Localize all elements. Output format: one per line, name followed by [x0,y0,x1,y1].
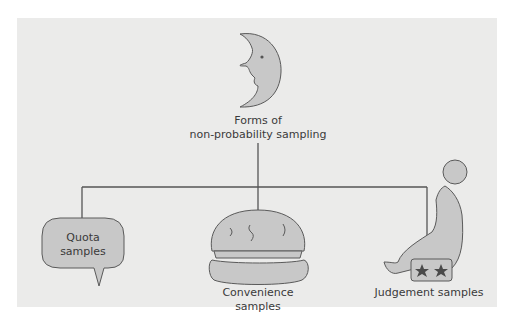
hamburger-icon [209,210,308,285]
crescent-moon-icon [240,34,281,108]
seal-icon [384,160,467,281]
judgement-samples-label: Judgement samples [369,286,489,300]
quota-label-line1: Quota [42,231,124,245]
diagram-graphics [0,0,516,327]
convenience-samples-label: Convenience samples [198,286,318,314]
root-label-line1: Forms of [178,114,338,128]
quota-label-line2: samples [42,245,124,259]
root-node-label: Forms of non-probability sampling [178,114,338,142]
quota-samples-label: Quota samples [42,231,124,259]
root-label-line2: non-probability sampling [178,128,338,142]
